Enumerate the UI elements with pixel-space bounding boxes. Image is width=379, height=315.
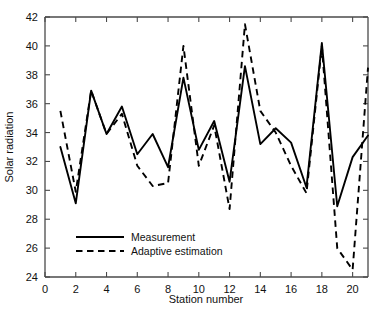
- legend-label-measurement: Measurement: [131, 231, 195, 243]
- x-tick-label: 2: [73, 283, 79, 295]
- x-tick-label: 0: [42, 283, 48, 295]
- y-tick-label: 28: [26, 213, 38, 225]
- solar-radiation-chart-figure: 24262830323436384042 02468101214161820 S…: [0, 0, 379, 315]
- y-tick-label: 36: [26, 98, 38, 110]
- y-tick-label: 34: [26, 127, 38, 139]
- y-tick-label: 38: [26, 69, 38, 81]
- x-tick-label: 14: [254, 283, 266, 295]
- y-tick-label: 26: [26, 242, 38, 254]
- x-tick-label: 6: [134, 283, 140, 295]
- y-tick-label: 32: [26, 155, 38, 167]
- x-tick-label: 16: [285, 283, 297, 295]
- legend-label-adaptive-estimation: Adaptive estimation: [131, 245, 223, 257]
- y-tick-label: 30: [26, 184, 38, 196]
- y-tick-label: 40: [26, 40, 38, 52]
- x-tick-label: 18: [316, 283, 328, 295]
- x-axis-title: Station number: [169, 293, 244, 305]
- x-tick-label: 4: [103, 283, 109, 295]
- y-tick-label: 24: [26, 271, 38, 283]
- chart-canvas: 24262830323436384042 02468101214161820 S…: [0, 0, 379, 315]
- y-tick-label: 42: [26, 11, 38, 23]
- x-tick-label: 20: [346, 283, 358, 295]
- y-axis-title: Solar radiation: [3, 112, 15, 183]
